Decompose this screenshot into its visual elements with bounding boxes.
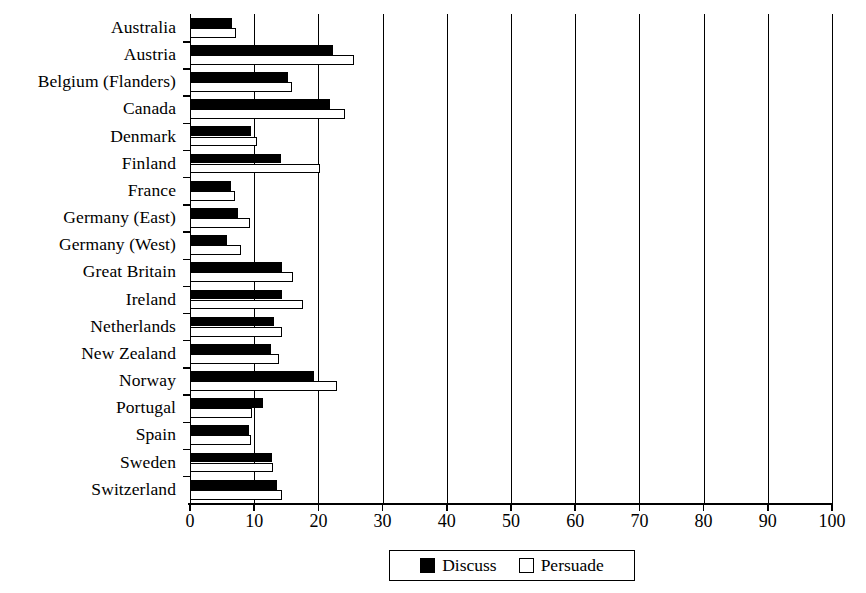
bar-discuss <box>190 235 227 245</box>
x-axis-tick <box>639 503 641 511</box>
y-axis-tick <box>183 177 190 178</box>
bar-row <box>190 340 832 367</box>
bar-persuade <box>190 191 235 201</box>
bar-persuade <box>190 272 293 282</box>
bar-discuss <box>190 154 281 164</box>
x-axis-tick-label: 90 <box>759 512 777 530</box>
y-axis-tick <box>183 150 190 151</box>
bar-discuss <box>190 398 263 408</box>
x-axis-tick-label: 20 <box>309 512 327 530</box>
legend-label: Discuss <box>442 557 496 575</box>
x-axis-tick-label: 50 <box>502 512 520 530</box>
category-label: Denmark <box>0 123 184 150</box>
bar-persuade <box>190 164 320 174</box>
y-axis-tick <box>183 259 190 260</box>
category-label: New Zealand <box>0 340 184 367</box>
plot-area <box>190 14 832 503</box>
bar-row <box>190 14 832 41</box>
y-axis-tick <box>183 41 190 42</box>
bar-discuss <box>190 126 251 136</box>
bar-discuss <box>190 72 288 82</box>
bar-persuade <box>190 381 337 391</box>
bar-persuade <box>190 218 250 228</box>
bar-persuade <box>190 82 292 92</box>
y-axis-tick <box>183 449 190 450</box>
x-axis-tick-label: 100 <box>819 512 846 530</box>
category-label: Switzerland <box>0 476 184 503</box>
bar-discuss <box>190 425 249 435</box>
bar-row <box>190 204 832 231</box>
x-axis-tick <box>253 503 255 511</box>
x-axis-tick-label: 60 <box>566 512 584 530</box>
category-label: Spain <box>0 422 184 449</box>
x-axis: 0102030405060708090100 <box>190 503 832 543</box>
chart-legend: DiscussPersuade <box>389 550 635 581</box>
category-label: Great Britain <box>0 259 184 286</box>
bar-row <box>190 476 832 503</box>
bar-discuss <box>190 480 277 490</box>
y-axis-tick <box>183 367 190 368</box>
y-axis-tick <box>183 313 190 314</box>
bar-persuade <box>190 300 303 310</box>
bar-discuss <box>190 208 238 218</box>
bar-discuss <box>190 45 333 55</box>
legend-entry: Persuade <box>519 557 604 575</box>
bar-persuade <box>190 490 282 500</box>
bar-discuss <box>190 262 282 272</box>
category-label: Finland <box>0 150 184 177</box>
bar-chart: AustraliaAustriaBelgium (Flanders)Canada… <box>0 0 866 593</box>
y-axis-tick <box>183 394 190 395</box>
x-axis-tick <box>703 503 705 511</box>
bar-row <box>190 286 832 313</box>
category-label: France <box>0 177 184 204</box>
bar-discuss <box>190 18 232 28</box>
bar-persuade <box>190 327 282 337</box>
x-axis-tick <box>446 503 448 511</box>
bar-row <box>190 177 832 204</box>
bar-row <box>190 367 832 394</box>
x-axis-tick <box>831 503 833 511</box>
category-label: Australia <box>0 14 184 41</box>
legend-swatch-icon <box>519 558 534 573</box>
category-label: Germany (West) <box>0 231 184 258</box>
bar-row <box>190 41 832 68</box>
bar-row <box>190 313 832 340</box>
bar-persuade <box>190 109 345 119</box>
y-axis-tick <box>183 204 190 205</box>
bar-discuss <box>190 317 274 327</box>
category-label: Ireland <box>0 286 184 313</box>
gridline <box>832 14 833 503</box>
bar-row <box>190 96 832 123</box>
bar-persuade <box>190 463 273 473</box>
x-axis-tick <box>189 503 191 511</box>
x-axis-tick-label: 70 <box>630 512 648 530</box>
category-label: Germany (East) <box>0 204 184 231</box>
legend-entry: Discuss <box>420 557 496 575</box>
category-label: Norway <box>0 367 184 394</box>
bar-row <box>190 394 832 421</box>
bar-discuss <box>190 99 330 109</box>
bar-row <box>190 68 832 95</box>
bar-row <box>190 449 832 476</box>
bar-discuss <box>190 290 282 300</box>
x-axis-tick-label: 30 <box>374 512 392 530</box>
y-axis-tick <box>183 286 190 287</box>
y-axis-tick <box>183 422 190 423</box>
x-axis-tick <box>767 503 769 511</box>
bar-row <box>190 259 832 286</box>
x-axis-tick-label: 0 <box>186 512 195 530</box>
y-axis-category-labels: AustraliaAustriaBelgium (Flanders)Canada… <box>0 14 184 503</box>
x-axis-tick <box>318 503 320 511</box>
x-axis-tick <box>574 503 576 511</box>
bar-persuade <box>190 245 241 255</box>
bar-persuade <box>190 55 354 65</box>
x-axis-tick-label: 40 <box>438 512 456 530</box>
bar-persuade <box>190 435 251 445</box>
y-axis-tick <box>183 340 190 341</box>
y-axis-tick <box>183 123 190 124</box>
x-axis-tick-label: 80 <box>695 512 713 530</box>
bar-row <box>190 123 832 150</box>
x-axis-tick <box>510 503 512 511</box>
y-axis-tick <box>183 476 190 477</box>
category-label: Canada <box>0 96 184 123</box>
